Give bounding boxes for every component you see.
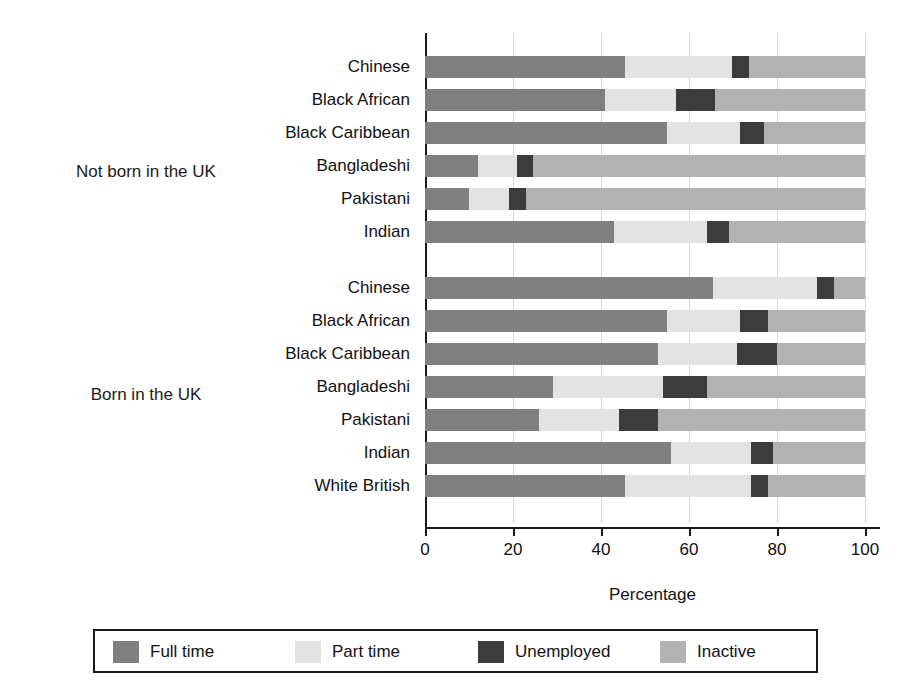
bar-segment-full-time (425, 409, 539, 431)
bar-row (425, 188, 865, 210)
x-tick-label-0: 0 (395, 540, 455, 560)
stacked-bar-chart: Not born in the UK Born in the UK Chines… (0, 0, 915, 699)
category-label: Black Caribbean (130, 123, 420, 143)
bar-segment-inactive (658, 409, 865, 431)
bar-segment-unemployed (737, 343, 777, 365)
bar-segment-unemployed (751, 475, 769, 497)
bar-segment-part-time (478, 155, 518, 177)
x-tick-60 (689, 529, 691, 536)
bar-segment-unemployed (619, 409, 659, 431)
bar-segment-full-time (425, 310, 667, 332)
bar-segment-part-time (553, 376, 663, 398)
category-label-column: ChineseBlack AfricanBlack CaribbeanBangl… (120, 0, 420, 525)
legend-item-inactive[interactable]: Inactive (660, 639, 756, 665)
bar-row (425, 475, 865, 497)
bar-segment-unemployed (517, 155, 532, 177)
bar-segment-unemployed (817, 277, 835, 299)
gridline-100 (865, 33, 866, 523)
bar-row (425, 277, 865, 299)
bar-segment-full-time (425, 89, 605, 111)
category-label: Black African (130, 90, 420, 110)
bar-row (425, 409, 865, 431)
category-label: Indian (130, 222, 420, 242)
bar-segment-inactive (707, 376, 865, 398)
legend-label: Unemployed (515, 642, 610, 662)
x-tick-label-40: 40 (571, 540, 631, 560)
category-label: Indian (130, 443, 420, 463)
bar-segment-part-time (658, 343, 737, 365)
bar-segment-unemployed (740, 310, 769, 332)
bar-segment-full-time (425, 376, 553, 398)
bar-segment-unemployed (732, 56, 749, 78)
bar-segment-part-time (625, 56, 732, 78)
legend-label: Full time (150, 642, 214, 662)
legend-swatch-part-time (295, 641, 321, 663)
category-label: Black Caribbean (130, 344, 420, 364)
bar-segment-part-time (671, 442, 750, 464)
legend-label: Part time (332, 642, 400, 662)
x-axis-title: Percentage (425, 585, 880, 605)
legend-swatch-unemployed (478, 641, 504, 663)
x-tick-20 (513, 529, 515, 536)
bar-segment-inactive (768, 310, 865, 332)
bar-segment-part-time (625, 475, 750, 497)
bar-segment-part-time (469, 188, 509, 210)
bar-segment-full-time (425, 343, 658, 365)
legend-item-full-time[interactable]: Full time (113, 639, 214, 665)
category-label: Pakistani (130, 410, 420, 430)
bar-segment-unemployed (751, 442, 773, 464)
bar-segment-inactive (764, 122, 865, 144)
bar-row (425, 376, 865, 398)
bar-segment-inactive (834, 277, 865, 299)
bar-row (425, 310, 865, 332)
bar-row (425, 89, 865, 111)
bar-segment-full-time (425, 122, 667, 144)
x-tick-label-100: 100 (835, 540, 895, 560)
x-axis-spine (425, 527, 880, 529)
bar-segment-unemployed (663, 376, 707, 398)
bar-segment-unemployed (707, 221, 729, 243)
bar-row (425, 221, 865, 243)
bar-row (425, 155, 865, 177)
legend-swatch-full-time (113, 641, 139, 663)
category-label: Chinese (130, 57, 420, 77)
bar-segment-unemployed (509, 188, 527, 210)
category-label: Bangladeshi (130, 377, 420, 397)
bar-segment-inactive (777, 343, 865, 365)
bar-segment-part-time (605, 89, 675, 111)
bar-segment-full-time (425, 56, 625, 78)
category-label: Bangladeshi (130, 156, 420, 176)
category-label: Pakistani (130, 189, 420, 209)
bar-row (425, 442, 865, 464)
bar-segment-full-time (425, 277, 713, 299)
bar-segment-part-time (539, 409, 618, 431)
category-label: Black African (130, 311, 420, 331)
bar-segment-full-time (425, 475, 625, 497)
x-tick-0 (425, 529, 427, 536)
category-label: Chinese (130, 278, 420, 298)
bar-segment-part-time (614, 221, 706, 243)
x-tick-100 (865, 529, 867, 536)
bar-segment-inactive (768, 475, 865, 497)
bar-segment-full-time (425, 155, 478, 177)
bar-segment-full-time (425, 221, 614, 243)
legend-label: Inactive (697, 642, 756, 662)
x-tick-label-80: 80 (747, 540, 807, 560)
bar-segment-inactive (729, 221, 865, 243)
bar-segment-unemployed (676, 89, 716, 111)
bar-segment-inactive (533, 155, 865, 177)
bar-segment-inactive (526, 188, 865, 210)
bar-row (425, 343, 865, 365)
bar-row (425, 56, 865, 78)
x-tick-40 (601, 529, 603, 536)
legend-item-unemployed[interactable]: Unemployed (478, 639, 610, 665)
bar-segment-part-time (667, 122, 740, 144)
bar-segment-inactive (773, 442, 865, 464)
legend-swatch-inactive (660, 641, 686, 663)
category-label: White British (130, 476, 420, 496)
legend: Full timePart timeUnemployedInactive (93, 629, 818, 673)
x-tick-80 (777, 529, 779, 536)
legend-item-part-time[interactable]: Part time (295, 639, 400, 665)
x-tick-label-20: 20 (483, 540, 543, 560)
bar-segment-unemployed (740, 122, 764, 144)
